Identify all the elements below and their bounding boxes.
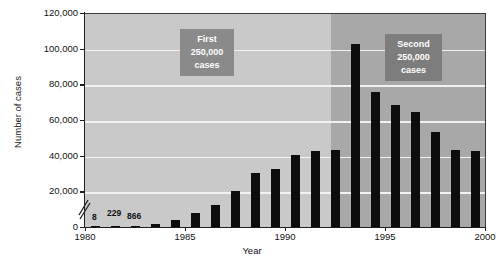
bar-1989 — [271, 169, 280, 228]
x-tick-label-1990: 1990 — [262, 231, 308, 242]
annotation-second-line-2: 250,000 — [391, 51, 436, 64]
y-tick-mark-20000 — [80, 191, 84, 192]
bar-1987 — [231, 191, 240, 228]
y-tick-label-60000: 60,000 — [18, 114, 78, 125]
annotation-first-line-1: First — [186, 33, 228, 46]
bar-value-label-1980: 8 — [92, 212, 97, 222]
annotation-second-line-3: cases — [391, 64, 436, 77]
x-tick-label-1995: 1995 — [362, 231, 408, 242]
chart-root: Number of cases First 250,000 cases Seco… — [0, 0, 504, 265]
gridline-60000 — [85, 121, 485, 123]
bar-1995 — [391, 105, 400, 228]
x-tick-label-1980: 1980 — [62, 231, 108, 242]
y-tick-mark-100000 — [80, 49, 84, 50]
x-tick-label-2000: 2000 — [462, 231, 504, 242]
y-tick-mark-40000 — [80, 156, 84, 157]
y-tick-mark-0 — [80, 227, 84, 228]
annotation-first-line-2: 250,000 — [186, 46, 228, 59]
bar-1996 — [411, 112, 420, 228]
bar-1990 — [291, 155, 300, 228]
bar-1998 — [451, 150, 460, 228]
x-tick-mark-1980 — [85, 227, 86, 231]
bar-value-label-1982: 866 — [127, 211, 141, 221]
x-tick-label-1985: 1985 — [162, 231, 208, 242]
x-axis-title: Year — [0, 245, 504, 256]
bar-1991 — [311, 151, 320, 228]
bar-1993 — [351, 44, 360, 228]
bar-1999 — [471, 151, 480, 228]
y-tick-mark-80000 — [80, 84, 84, 85]
bar-1988 — [251, 173, 260, 228]
annotation-first-line-3: cases — [186, 59, 228, 72]
gridline-20000 — [85, 192, 485, 194]
y-tick-label-120000: 120,000 — [18, 7, 78, 18]
y-tick-label-20000: 20,000 — [18, 185, 78, 196]
gridline-80000 — [85, 85, 485, 87]
annotation-second-line-1: Second — [391, 38, 436, 51]
x-tick-mark-1990 — [285, 227, 286, 231]
plot-area: First 250,000 cases Second 250,000 cases — [85, 13, 486, 228]
bar-value-label-1981: 229 — [107, 208, 121, 218]
bar-1994 — [371, 92, 380, 228]
x-tick-mark-1985 — [185, 227, 186, 231]
x-tick-mark-1995 — [385, 227, 386, 231]
gridline-40000 — [85, 157, 485, 159]
bar-1997 — [431, 132, 440, 228]
y-tick-label-40000: 40,000 — [18, 150, 78, 161]
bar-1986 — [211, 205, 220, 228]
bar-1992 — [331, 150, 340, 228]
y-tick-label-80000: 80,000 — [18, 78, 78, 89]
y-tick-label-100000: 100,000 — [18, 43, 78, 54]
x-tick-mark-2000 — [485, 227, 486, 231]
y-tick-mark-60000 — [80, 120, 84, 121]
annotation-second-period: Second 250,000 cases — [385, 34, 442, 81]
annotation-first-period: First 250,000 cases — [180, 29, 234, 76]
axis-break-icon — [77, 198, 93, 220]
y-tick-mark-120000 — [80, 13, 84, 14]
